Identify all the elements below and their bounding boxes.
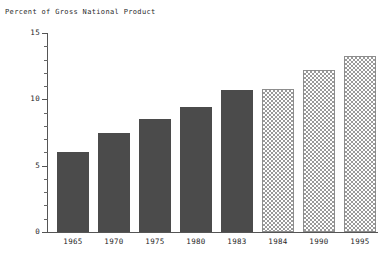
y-tick-minor bbox=[44, 179, 48, 180]
bar bbox=[139, 119, 171, 232]
bar-chart: Percent of Gross National Product 051015… bbox=[0, 0, 383, 258]
y-tick-major bbox=[42, 99, 48, 100]
bar bbox=[303, 70, 335, 232]
y-tick-major bbox=[42, 33, 48, 34]
y-axis-line bbox=[47, 33, 48, 233]
x-axis-line bbox=[47, 232, 378, 233]
y-tick-minor bbox=[44, 46, 48, 47]
x-tick-label: 1975 bbox=[135, 237, 175, 246]
plot-area: 051015 19651970197519801983198419901995 bbox=[0, 0, 383, 258]
y-tick-label: 15 bbox=[6, 29, 40, 37]
y-tick-major bbox=[42, 232, 48, 233]
y-tick-label: 5 bbox=[6, 162, 40, 170]
y-tick-label: 0 bbox=[6, 228, 40, 236]
y-tick-minor bbox=[44, 192, 48, 193]
bar bbox=[221, 90, 253, 232]
y-tick-label: 10 bbox=[6, 95, 40, 103]
y-tick-minor bbox=[44, 73, 48, 74]
y-tick-minor bbox=[44, 86, 48, 87]
x-tick-label: 1983 bbox=[217, 237, 257, 246]
x-tick-label: 1984 bbox=[258, 237, 298, 246]
bar bbox=[344, 56, 376, 232]
x-tick-label: 1990 bbox=[299, 237, 339, 246]
y-tick-minor bbox=[44, 113, 48, 114]
y-tick-minor bbox=[44, 60, 48, 61]
x-tick-label: 1980 bbox=[176, 237, 216, 246]
y-tick-minor bbox=[44, 205, 48, 206]
y-tick-minor bbox=[44, 152, 48, 153]
x-tick-label: 1970 bbox=[94, 237, 134, 246]
y-tick-minor bbox=[44, 126, 48, 127]
x-tick-label: 1995 bbox=[340, 237, 380, 246]
y-tick-minor bbox=[44, 139, 48, 140]
x-tick-label: 1965 bbox=[53, 237, 93, 246]
y-tick-major bbox=[42, 166, 48, 167]
bar bbox=[262, 89, 294, 232]
bar bbox=[180, 107, 212, 232]
bar bbox=[98, 133, 130, 233]
bar bbox=[57, 152, 89, 232]
y-tick-minor bbox=[44, 219, 48, 220]
